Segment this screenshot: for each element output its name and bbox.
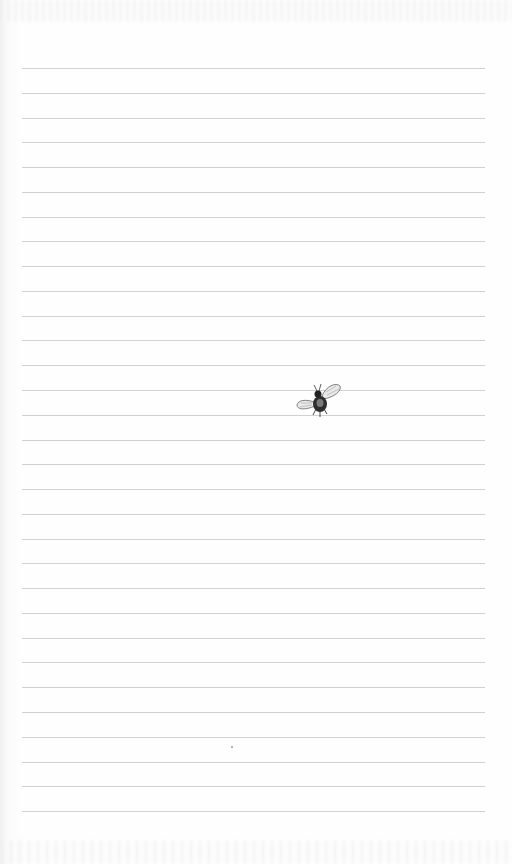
ruled-line — [22, 662, 485, 663]
ruled-line — [22, 762, 485, 763]
ruled-line — [22, 266, 485, 267]
ruled-line — [22, 613, 485, 614]
ruled-line — [22, 737, 485, 738]
bleed-through-text-top — [0, 0, 512, 22]
ruled-line — [22, 638, 485, 639]
ruled-line — [22, 588, 485, 589]
ruled-line — [22, 340, 485, 341]
ruled-line — [22, 68, 485, 69]
ruled-line — [22, 539, 485, 540]
ruled-line — [22, 291, 485, 292]
ruled-line — [22, 464, 485, 465]
ruled-line — [22, 142, 485, 143]
bee-icon — [296, 382, 342, 418]
ruled-line — [22, 786, 485, 787]
ruled-line — [22, 316, 485, 317]
ruled-line — [22, 440, 485, 441]
ruled-line — [22, 712, 485, 713]
ruled-line — [22, 489, 485, 490]
ruled-line — [22, 217, 485, 218]
notepad-page — [0, 0, 512, 864]
ruled-line — [22, 811, 485, 812]
bleed-through-text-bottom — [0, 840, 512, 864]
ruled-line — [22, 365, 485, 366]
ruled-line — [22, 390, 485, 391]
ruled-line — [22, 192, 485, 193]
ruled-line — [22, 241, 485, 242]
ruled-line — [22, 687, 485, 688]
ruled-line — [22, 415, 485, 416]
ruled-line — [22, 93, 485, 94]
ruled-line — [22, 563, 485, 564]
ruled-line — [22, 167, 485, 168]
speck — [231, 746, 233, 748]
ruled-line — [22, 514, 485, 515]
ruled-line — [22, 118, 485, 119]
